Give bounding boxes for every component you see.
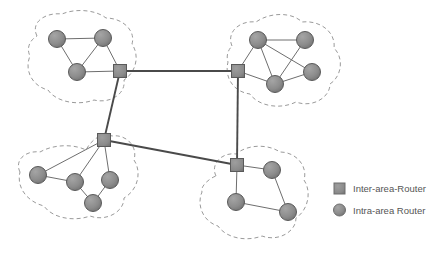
intra-area-router-B1[interactable]	[250, 32, 267, 49]
inter-area-router-icon	[334, 183, 345, 194]
legend: Inter-area-Router Intra-area Router	[334, 183, 426, 216]
area-boundary-top-left	[28, 11, 136, 103]
intra-area-router-D1[interactable]	[264, 162, 281, 179]
intra-area-router-B2[interactable]	[297, 32, 314, 49]
intra-area-router-C3[interactable]	[102, 172, 119, 189]
intra-area-router-B3[interactable]	[304, 64, 321, 81]
intra-area-router-C4[interactable]	[85, 195, 102, 212]
inter-area-router-R4[interactable]	[231, 159, 244, 172]
intra-area-router-D3[interactable]	[280, 204, 297, 221]
backbone-link-R1-R3	[104, 71, 120, 140]
link-C1-R3	[38, 140, 104, 175]
inter-area-router-R3[interactable]	[98, 134, 111, 147]
legend-item-inter-area-router: Inter-area-Router	[334, 183, 426, 194]
intra-area-router-A1[interactable]	[49, 31, 66, 48]
inter-area-routers	[98, 65, 245, 172]
backbone-link-R2-R4	[237, 71, 238, 165]
inter-area-router-R1[interactable]	[114, 65, 127, 78]
legend-label-inter-area-router: Inter-area-Router	[353, 183, 426, 194]
intra-area-router-A3[interactable]	[69, 64, 86, 81]
area-boundary-top-right	[227, 15, 340, 107]
intra-area-router-D2[interactable]	[228, 194, 245, 211]
area-boundary-bottom-right	[200, 146, 308, 239]
intra-area-router-C1[interactable]	[30, 167, 47, 184]
intra-area-routers	[30, 30, 321, 221]
legend-item-intra-area-router: Intra-area Router	[334, 204, 426, 216]
network-topology-diagram: Inter-area-Router Intra-area Router	[0, 0, 438, 260]
backbone-link-R3-R4	[104, 140, 237, 165]
intra-area-router-C2[interactable]	[67, 174, 84, 191]
inter-area-router-R2[interactable]	[232, 65, 245, 78]
diagram-canvas: Inter-area-Router Intra-area Router	[0, 0, 438, 260]
intra-area-router-B4[interactable]	[267, 76, 284, 93]
intra-area-router-A2[interactable]	[95, 30, 112, 47]
legend-label-intra-area-router: Intra-area Router	[353, 205, 425, 216]
intra-area-router-icon	[334, 204, 346, 216]
